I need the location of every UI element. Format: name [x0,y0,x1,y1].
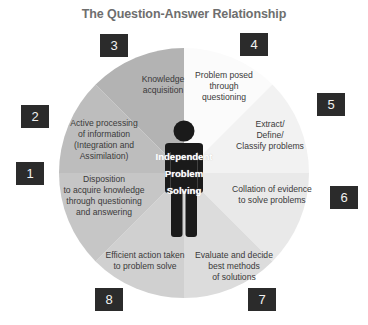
number-badge-4: 4 [240,33,268,56]
center-label: Independent Problem Solving [136,148,232,199]
segment-1-label: Disposition to acquire knowledge through… [58,174,150,218]
number-badge-2: 2 [21,105,49,128]
number-badge-7: 7 [248,288,276,311]
segment-6-label: Collation of evidence to solve problems [222,184,322,206]
number-badge-1: 1 [16,162,44,185]
number-badge-3: 3 [100,34,128,57]
number-badge-5: 5 [317,93,345,116]
segment-7-label: Evaluate and decide best methods of solu… [188,250,280,283]
segment-5-label: Extract/ Define/ Classify problems [222,119,318,152]
segment-8-label: Efficient action taken to problem solve [100,250,190,272]
segment-4-label: Problem posed through questioning [183,70,265,103]
segment-2-label: Active processing of information (Integr… [62,118,146,162]
number-badge-8: 8 [95,288,123,311]
number-badge-6: 6 [330,186,358,209]
